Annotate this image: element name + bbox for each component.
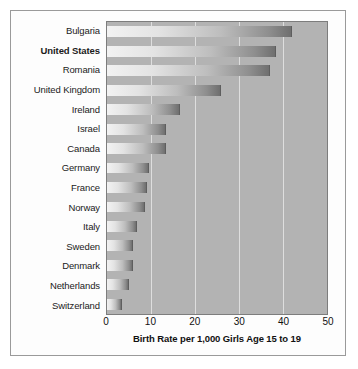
bar	[107, 143, 166, 154]
category-label: Bulgaria	[11, 21, 104, 41]
bar	[107, 26, 292, 37]
bar-row	[107, 158, 327, 177]
x-tick-label: 40	[278, 316, 289, 327]
bar-row	[107, 217, 327, 236]
bar	[107, 221, 137, 232]
bar-row	[107, 275, 327, 294]
x-tick-label: 30	[234, 316, 245, 327]
bar-row	[107, 41, 327, 60]
category-label: Canada	[11, 139, 104, 159]
category-label: United States	[11, 41, 104, 61]
bar-row	[107, 80, 327, 99]
category-label: Sweden	[11, 237, 104, 257]
category-label: Switzerland	[11, 295, 104, 315]
bar-row	[107, 139, 327, 158]
category-axis: BulgariaUnited StatesRomaniaUnited Kingd…	[11, 21, 104, 315]
x-tick-label: 50	[322, 316, 333, 327]
category-label: Germany	[11, 158, 104, 178]
plot-area	[106, 21, 328, 315]
x-tick-label: 10	[145, 316, 156, 327]
category-label: Italy	[11, 217, 104, 237]
bar-row	[107, 295, 327, 314]
bar	[107, 46, 276, 57]
bar-row	[107, 236, 327, 255]
bar	[107, 104, 180, 115]
bar-row	[107, 61, 327, 80]
category-label: United Kingdom	[11, 80, 104, 100]
x-axis-title: Birth Rate per 1,000 Girls Age 15 to 19	[106, 333, 328, 344]
bar-series	[107, 22, 327, 314]
bar-chart: BulgariaUnited StatesRomaniaUnited Kingd…	[11, 11, 347, 357]
category-label: France	[11, 178, 104, 198]
chart-figure: BulgariaUnited StatesRomaniaUnited Kingd…	[10, 10, 346, 356]
bar	[107, 240, 133, 251]
bar-row	[107, 119, 327, 138]
category-label: Norway	[11, 197, 104, 217]
category-label: Ireland	[11, 99, 104, 119]
category-label: Romania	[11, 60, 104, 80]
bar	[107, 182, 147, 193]
bar-row	[107, 197, 327, 216]
bar	[107, 202, 145, 213]
category-label: Israel	[11, 119, 104, 139]
bar	[107, 65, 270, 76]
bar-row	[107, 178, 327, 197]
category-label: Denmark	[11, 256, 104, 276]
category-label: Netherlands	[11, 276, 104, 296]
bar-row	[107, 100, 327, 119]
bar	[107, 124, 166, 135]
x-tick-label: 0	[103, 316, 109, 327]
value-axis: 01020304050	[106, 316, 328, 330]
bar-row	[107, 22, 327, 41]
x-tick-label: 20	[189, 316, 200, 327]
bar	[107, 299, 122, 310]
bar	[107, 163, 149, 174]
bar-row	[107, 256, 327, 275]
bar	[107, 279, 129, 290]
bar	[107, 260, 133, 271]
bar	[107, 85, 221, 96]
